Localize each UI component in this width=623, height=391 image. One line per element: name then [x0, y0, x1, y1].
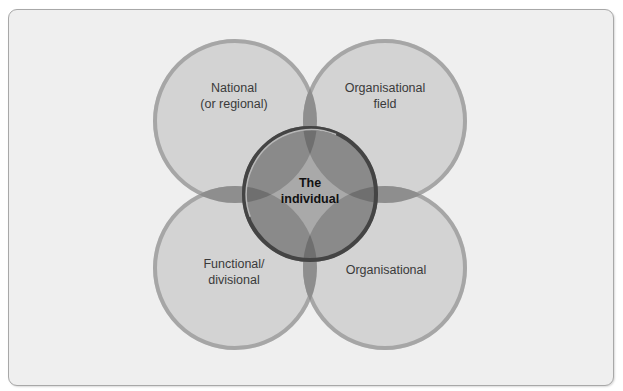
label-organisational-field-line2: field — [345, 96, 426, 112]
label-organisational-field: Organisational field — [345, 80, 426, 112]
label-functional: Functional/ divisional — [203, 256, 264, 288]
label-national-line2: (or regional) — [200, 96, 267, 112]
label-individual: The individual — [281, 175, 339, 207]
label-organisational-field-line1: Organisational — [345, 80, 426, 96]
label-organisational-line1: Organisational — [346, 262, 427, 278]
label-national-line1: National — [200, 80, 267, 96]
label-functional-line1: Functional/ — [203, 256, 264, 272]
label-national: National (or regional) — [200, 80, 267, 112]
label-organisational: Organisational — [346, 262, 427, 278]
label-individual-line1: The — [281, 175, 339, 191]
label-individual-line2: individual — [281, 191, 339, 207]
label-functional-line2: divisional — [203, 272, 264, 288]
